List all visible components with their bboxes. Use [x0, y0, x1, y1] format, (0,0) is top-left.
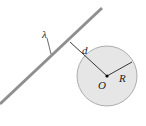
distance-label: d	[82, 44, 88, 56]
radius-label: R	[118, 72, 126, 84]
diagram: λ d R O	[0, 0, 146, 126]
center-label: O	[98, 79, 106, 91]
lambda-pointer	[47, 38, 51, 54]
center-point	[105, 74, 108, 77]
diagram-canvas: λ d R O	[0, 0, 146, 126]
lambda-label: λ	[41, 28, 47, 40]
